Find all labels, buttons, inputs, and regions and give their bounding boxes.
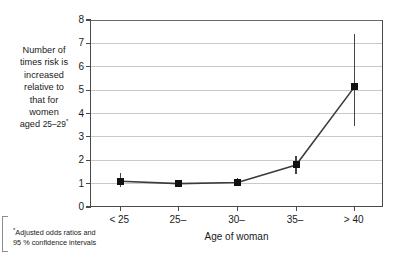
x-tick-label-3: 35–	[265, 214, 325, 226]
y-tick-label-6: 6	[64, 62, 84, 72]
data-point-1	[175, 180, 182, 187]
x-axis-title: Age of woman	[90, 231, 383, 242]
y-tick-label-7: 7	[64, 38, 84, 48]
y-tick-label-8: 8	[64, 15, 84, 25]
footnote-line-1: *Adjusted odds ratios and	[13, 228, 123, 238]
x-axis-tick-labels: < 2525–30–35–> 40	[90, 214, 383, 230]
y-tick-label-4: 4	[64, 109, 84, 119]
y-tick-label-0: 0	[64, 202, 84, 212]
data-point-2	[234, 179, 241, 186]
y-tick-label-5: 5	[64, 85, 84, 95]
x-tick-label-4: > 40	[324, 214, 384, 226]
y-tick-label-2: 2	[64, 155, 84, 165]
error-bar-4	[354, 34, 355, 126]
y-tick-label-3: 3	[64, 132, 84, 142]
y-axis-tick-labels: 012345678	[62, 0, 84, 255]
figure: Number of times risk is increased relati…	[0, 0, 402, 255]
x-tick-label-0: < 25	[89, 214, 149, 226]
page-edge-artifact	[2, 216, 8, 252]
y-axis-title-age-prefix: aged	[20, 119, 43, 129]
plot-area	[90, 20, 383, 207]
data-point-4	[351, 83, 358, 90]
footnote-line-2: 95 % confidence intervals	[13, 238, 123, 248]
y-tick-label-1: 1	[64, 179, 84, 189]
chart-footnote: *Adjusted odds ratios and 95 % confidenc…	[13, 228, 123, 247]
x-tick-label-1: 25–	[148, 214, 208, 226]
data-point-0	[117, 178, 124, 185]
x-tick-label-2: 30–	[207, 214, 267, 226]
footnote-text-1: Adjusted odds ratios and	[15, 228, 95, 237]
data-point-3	[293, 161, 300, 168]
